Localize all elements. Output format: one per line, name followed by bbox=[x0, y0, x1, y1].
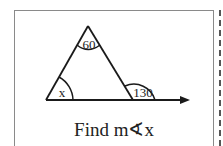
left-angle-label: x bbox=[59, 85, 66, 100]
question-caption: Find m∢x bbox=[0, 118, 223, 141]
exterior-angle-label: 130 bbox=[133, 85, 153, 100]
arrow-head-icon bbox=[180, 96, 190, 104]
apex-angle-label: 60 bbox=[83, 37, 96, 52]
